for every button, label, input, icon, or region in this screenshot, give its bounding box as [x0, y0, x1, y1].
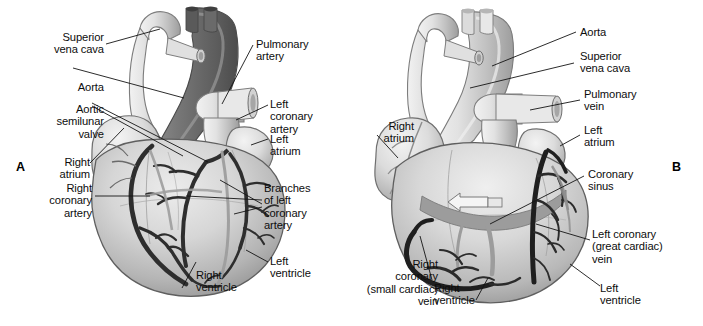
label-right-coronary-small-cardiac-vein-b: Right coronary (small cardiac) vein [330, 258, 438, 308]
label-left-ventricle-b: Left ventricle [600, 282, 666, 307]
label-right-coronary-artery-a: Right coronary artery [6, 182, 92, 219]
label-left-atrium-a: Left atrium [270, 133, 330, 158]
label-right-atrium-b: Right atrium [352, 120, 414, 145]
label-right-atrium-a: Right atrium [20, 156, 90, 181]
label-left-coronary-artery-a: Left coronary artery [270, 98, 342, 135]
label-aorta-b: Aorta [580, 26, 640, 38]
anatomy-figure: A Superior vena cava Aorta Aortic semilu… [0, 0, 703, 326]
label-pulmonary-artery-a: Pulmonary artery [256, 38, 332, 63]
label-aorta-a: Aorta [6, 81, 104, 93]
label-coronary-sinus-b: Coronary sinus [588, 168, 662, 193]
label-pulmonary-vein-b: Pulmonary vein [584, 88, 666, 113]
label-aortic-semilunar-valve-a: Aortic semilunar valve [4, 103, 104, 140]
label-left-ventricle-a: Left ventricle [270, 255, 336, 280]
label-right-ventricle-b: Right ventricle [434, 282, 500, 307]
label-branches-of-left-coronary-artery-a: Branches of left coronary artery [264, 182, 342, 232]
label-superior-vena-cava-a: Superior vena cava [6, 31, 104, 56]
panel-b-id: B [672, 160, 681, 174]
label-left-coronary-great-cardiac-vein-b: Left coronary (great cardiac) vein [592, 228, 696, 265]
label-superior-vena-cava-b: Superior vena cava [580, 50, 672, 75]
panel-a-heart [73, 6, 285, 296]
label-right-ventricle-a: Right ventricle [196, 269, 262, 294]
label-left-atrium-b: Left atrium [584, 124, 644, 149]
